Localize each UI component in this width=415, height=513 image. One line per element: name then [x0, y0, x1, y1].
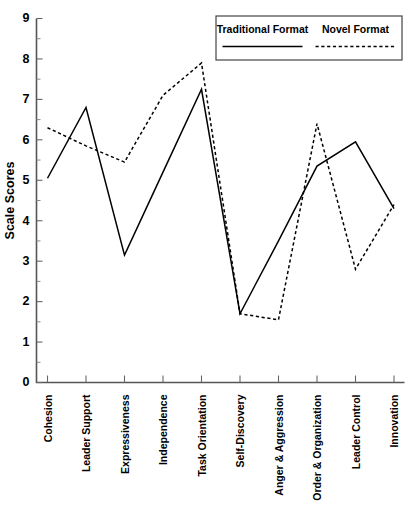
y-tick-label-5: 5	[23, 173, 30, 187]
x-tick-label-8: Leader Control	[350, 394, 362, 469]
y-tick-label-2: 2	[23, 294, 30, 308]
y-tick-label-9: 9	[23, 11, 30, 25]
y-axis-title: Scale Scores	[3, 162, 17, 240]
legend-label-traditional-format: Traditional Format	[217, 23, 309, 35]
y-tick-label-4: 4	[23, 214, 30, 228]
y-tick-label-3: 3	[23, 254, 30, 268]
y-axis-ticks: 0123456789	[23, 11, 43, 389]
y-tick-label-8: 8	[23, 52, 30, 66]
x-tick-label-3: Independence	[157, 394, 169, 465]
chart-legend: Traditional FormatNovel Format	[216, 16, 402, 60]
x-tick-label-5: Self-Discovery	[234, 394, 246, 467]
y-tick-label-1: 1	[23, 335, 30, 349]
y-axis-label: Scale Scores	[3, 162, 17, 240]
y-tick-label-6: 6	[23, 133, 30, 147]
line-chart: 0123456789 Scale Scores CohesionLeader S…	[0, 0, 415, 513]
series-line-novel-format	[48, 63, 395, 320]
series-line-traditional-format	[48, 89, 395, 313]
x-tick-label-1: Leader Support	[80, 394, 92, 472]
x-tick-label-0: Cohesion	[42, 395, 54, 443]
x-tick-label-9: Innovation	[388, 395, 400, 448]
x-axis-labels: CohesionLeader SupportExpressivenessInde…	[42, 394, 401, 501]
x-tick-label-7: Order & Organization	[311, 395, 323, 501]
legend-label-novel-format: Novel Format	[322, 23, 390, 35]
x-tick-label-4: Task Orientation	[196, 395, 208, 477]
x-tick-label-2: Expressiveness	[119, 394, 131, 474]
data-series	[48, 63, 395, 320]
x-axis-ticks	[48, 376, 395, 383]
y-tick-label-7: 7	[23, 92, 30, 106]
chart-container: 0123456789 Scale Scores CohesionLeader S…	[0, 0, 415, 513]
y-tick-label-0: 0	[23, 375, 30, 389]
x-tick-label-6: Anger & Aggression	[273, 395, 285, 496]
